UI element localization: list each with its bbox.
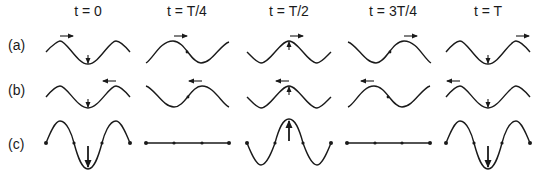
node-dots: [44, 51, 532, 145]
waves-canvas: [0, 0, 540, 175]
